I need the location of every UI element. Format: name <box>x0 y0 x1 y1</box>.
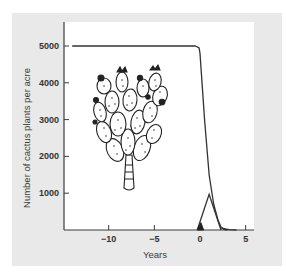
x-axis-title: Years <box>143 249 167 260</box>
y-tick-label: 2000 <box>39 151 59 161</box>
x-ticks: −10−505 <box>101 225 248 244</box>
y-tick-label: 4000 <box>39 78 59 88</box>
y-tick-label: 5000 <box>39 41 59 51</box>
x-tick-label: −5 <box>149 234 159 244</box>
x-tick-label: 0 <box>197 234 202 244</box>
y-tick-label: 1000 <box>39 188 59 198</box>
chart-canvas: 10002000300040005000 −10−505 Number of c… <box>0 0 286 280</box>
cactus-illustration-icon <box>92 65 170 190</box>
y-axis-title: Number of cactus plants per acre <box>21 68 32 208</box>
x-tick-label: 5 <box>243 234 248 244</box>
x-tick-label: −10 <box>101 234 116 244</box>
y-tick-label: 3000 <box>39 115 59 125</box>
